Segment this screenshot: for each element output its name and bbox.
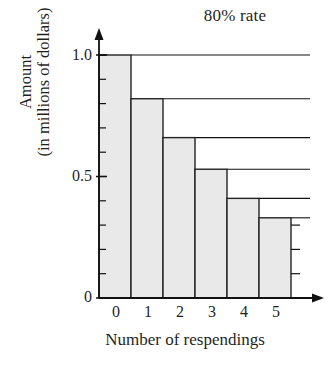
bar-1[interactable] [131, 99, 163, 298]
bar-5[interactable] [259, 218, 291, 298]
plot-area [0, 0, 330, 366]
bar-3[interactable] [195, 169, 227, 298]
bar-4[interactable] [227, 198, 259, 298]
x-axis-arrow-icon [312, 294, 324, 303]
bar-2[interactable] [163, 138, 195, 298]
y-axis-arrow-icon [95, 28, 104, 40]
bar-chart-figure: 80% rate Amount (in millions of dollars)… [0, 0, 330, 366]
